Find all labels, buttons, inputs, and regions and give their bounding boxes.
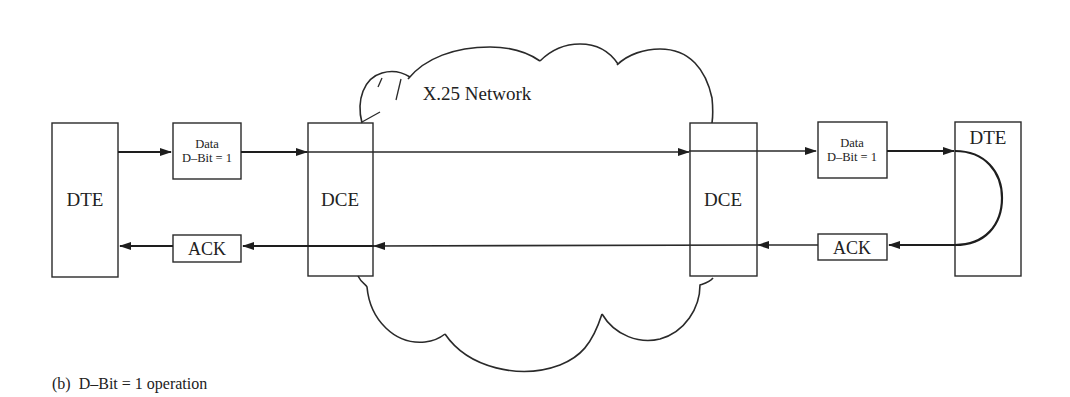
arrow-left-icon	[374, 245, 758, 246]
x25-dbit-diagram: X.25 Network DTE Data D–Bit = 1 ACK DCE …	[0, 0, 1070, 397]
left-dte-label: DTE	[67, 189, 104, 210]
left-data-label: Data	[195, 137, 219, 151]
right-dce-label: DCE	[704, 189, 742, 210]
right-dte-label: DTE	[970, 127, 1007, 148]
right-ack-label: ACK	[833, 238, 871, 258]
network-label: X.25 Network	[423, 83, 532, 104]
network-cloud	[358, 44, 713, 371]
right-data-label: Data	[840, 136, 864, 150]
left-ack-label: ACK	[188, 239, 226, 259]
right-dbit-label: D–Bit = 1	[827, 150, 877, 164]
figure-caption: (b) D–Bit = 1 operation	[52, 375, 207, 393]
left-dbit-label: D–Bit = 1	[182, 151, 232, 165]
left-dce-label: DCE	[321, 189, 359, 210]
